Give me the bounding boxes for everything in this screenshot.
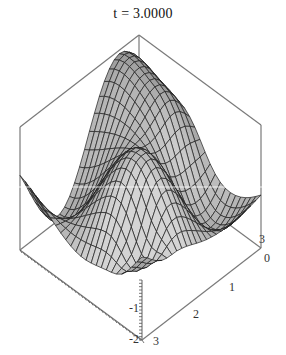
plot-frame: t = 3.0000 -2-132103 (0, 0, 286, 355)
z-tick-label: -1 (129, 301, 139, 315)
y-tick-label: 3 (259, 232, 265, 246)
surface-mesh (20, 51, 261, 274)
surface-plot[interactable]: -2-132103 (0, 0, 286, 355)
box-edge (142, 248, 261, 340)
x-tick-label: 0 (264, 251, 270, 265)
x-tick-label: 1 (229, 280, 235, 294)
z-tick-label: -2 (129, 332, 139, 346)
x-tick-label: 3 (153, 334, 159, 348)
axis-tick (142, 340, 144, 343)
x-tick-label: 2 (193, 307, 199, 321)
